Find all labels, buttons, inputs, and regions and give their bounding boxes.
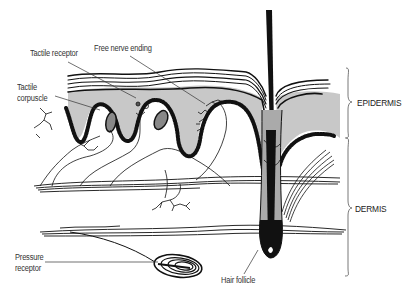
- label-tactile-corpuscle-line1: Tactile: [17, 82, 37, 92]
- label-pressure-receptor-line2: receptor: [15, 263, 41, 273]
- label-dermis: DERMIS: [355, 204, 386, 214]
- skin-diagram: [0, 0, 410, 295]
- label-pressure-receptor-line1: Pressure: [15, 252, 44, 262]
- pressure-receptor: [70, 232, 203, 280]
- label-hair-follicle: Hair follicle: [221, 275, 255, 285]
- label-tactile-corpuscle-line2: corpuscle: [17, 93, 47, 103]
- tactile-corpuscle-1: [104, 111, 117, 132]
- label-free-nerve-ending: Free nerve ending: [94, 43, 152, 53]
- label-tactile-receptor: Tactile receptor: [30, 48, 78, 58]
- dermal-nerve-plexus: [34, 177, 346, 237]
- arrector-pili-muscle: [282, 150, 334, 222]
- hair: [259, 10, 282, 258]
- dermal-free-nerve-ending: [152, 184, 190, 211]
- tactile-corpuscle-2: [151, 108, 170, 131]
- label-epidermis: EPIDERMIS: [357, 98, 401, 108]
- layer-brackets: [345, 68, 352, 276]
